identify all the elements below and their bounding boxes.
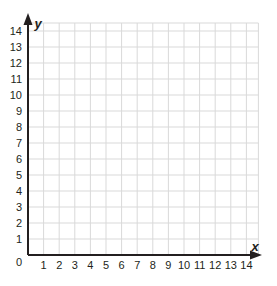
y-tick-label: 14 [10,25,22,37]
x-tick-label: 6 [119,259,125,271]
x-tick-label: 13 [225,259,237,271]
x-tick-label: 4 [87,259,93,271]
x-tick-label: 2 [56,259,62,271]
x-tick-label: 7 [134,259,140,271]
x-tick-label: 3 [72,259,78,271]
x-tick-label: 9 [165,259,171,271]
x-tick-label: 11 [194,259,205,271]
origin-label: 0 [16,256,22,268]
y-tick-label: 10 [10,89,22,101]
y-tick-label: 11 [11,73,22,85]
y-tick-label: 13 [10,41,22,53]
y-tick-label: 5 [16,169,22,181]
y-axis-label: y [33,16,42,31]
x-tick-label: 5 [103,259,109,271]
y-tick-label: 3 [16,201,22,213]
y-tick-label: 1 [16,233,22,245]
coordinate-grid-chart: 1234567891011121314 1234567891011121314 … [0,0,277,286]
y-axis-arrow-icon [24,13,33,25]
y-tick-label: 6 [16,153,22,165]
y-tick-label: 7 [16,137,22,149]
y-tick-label: 8 [16,121,22,133]
x-tick-label: 12 [209,259,221,271]
x-axis-label: x [250,239,259,254]
y-tick-labels: 1234567891011121314 [10,25,22,245]
y-tick-label: 12 [10,57,22,69]
x-tick-label: 8 [150,259,156,271]
x-tick-label: 10 [178,259,190,271]
y-tick-label: 9 [16,105,22,117]
x-tick-labels: 1234567891011121314 [41,259,253,271]
y-tick-label: 4 [16,185,22,197]
y-tick-label: 2 [16,217,22,229]
grid-lines [28,23,258,255]
x-tick-label: 1 [41,259,47,271]
x-tick-label: 14 [240,259,252,271]
